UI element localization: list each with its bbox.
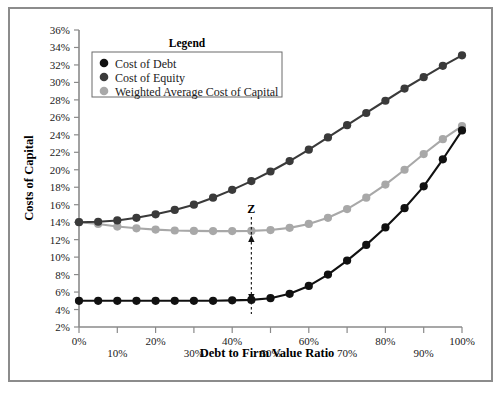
data-point bbox=[132, 214, 140, 222]
data-point bbox=[171, 297, 179, 305]
data-point bbox=[266, 167, 274, 175]
data-point bbox=[400, 84, 408, 92]
data-point bbox=[209, 297, 217, 305]
x-tick-label: 10% bbox=[107, 347, 127, 359]
data-point bbox=[266, 226, 274, 234]
chart-canvas: 2%4%6%8%10%12%14%16%18%20%22%24%26%28%30… bbox=[0, 0, 503, 393]
data-point bbox=[420, 182, 428, 190]
x-tick-label: 80% bbox=[375, 335, 395, 347]
data-point bbox=[343, 257, 351, 265]
x-tick-label: 70% bbox=[337, 347, 357, 359]
x-tick-label: 20% bbox=[146, 335, 166, 347]
x-tick-label: 100% bbox=[449, 335, 475, 347]
legend-label: Cost of Debt bbox=[115, 57, 177, 71]
data-point bbox=[113, 216, 121, 224]
y-tick-label: 4% bbox=[55, 304, 70, 316]
data-point bbox=[190, 201, 198, 209]
data-point bbox=[381, 223, 389, 231]
data-point bbox=[94, 297, 102, 305]
data-point bbox=[324, 214, 332, 222]
data-point bbox=[381, 181, 389, 189]
legend-title: Legend bbox=[169, 37, 206, 50]
data-point bbox=[420, 150, 428, 158]
data-point bbox=[458, 126, 466, 134]
data-point bbox=[286, 290, 294, 298]
y-tick-label: 36% bbox=[50, 24, 70, 36]
y-tick-label: 2% bbox=[55, 321, 70, 333]
data-point bbox=[400, 204, 408, 212]
data-point bbox=[75, 297, 83, 305]
annotation-arrowhead-up bbox=[248, 235, 254, 242]
data-point bbox=[190, 227, 198, 235]
y-tick-label: 14% bbox=[50, 216, 70, 228]
y-tick-label: 6% bbox=[55, 286, 70, 298]
chart-legend: LegendCost of DebtCost of EquityWeighted… bbox=[92, 37, 282, 99]
data-point bbox=[362, 194, 370, 202]
data-point bbox=[132, 224, 140, 232]
data-point bbox=[439, 155, 447, 163]
data-point bbox=[94, 218, 102, 226]
data-point bbox=[209, 227, 217, 235]
x-axis-title: Debt to Firm Value Ratio bbox=[200, 346, 335, 360]
data-point bbox=[209, 194, 217, 202]
data-point bbox=[228, 186, 236, 194]
data-point bbox=[75, 218, 83, 226]
data-point bbox=[439, 135, 447, 143]
data-point bbox=[400, 166, 408, 174]
data-point bbox=[113, 297, 121, 305]
data-point bbox=[152, 297, 160, 305]
data-point bbox=[420, 73, 428, 81]
y-tick-label: 22% bbox=[50, 146, 70, 158]
x-tick-label: 90% bbox=[414, 347, 434, 359]
y-tick-label: 8% bbox=[55, 269, 70, 281]
data-point bbox=[152, 210, 160, 218]
data-point bbox=[171, 206, 179, 214]
y-tick-label: 30% bbox=[50, 76, 70, 88]
data-point bbox=[266, 294, 274, 302]
data-point bbox=[228, 227, 236, 235]
y-tick-label: 10% bbox=[50, 251, 70, 263]
data-point bbox=[286, 157, 294, 165]
data-point bbox=[228, 296, 236, 304]
x-tick-label: 0% bbox=[72, 335, 87, 347]
y-tick-label: 16% bbox=[50, 199, 70, 211]
y-tick-label: 24% bbox=[50, 129, 70, 141]
y-tick-label: 18% bbox=[50, 181, 70, 193]
data-point bbox=[343, 121, 351, 129]
data-point bbox=[343, 205, 351, 213]
data-point bbox=[286, 224, 294, 232]
legend-marker bbox=[100, 59, 109, 68]
data-point bbox=[305, 220, 313, 228]
data-point bbox=[458, 51, 466, 59]
data-point bbox=[152, 226, 160, 234]
y-tick-label: 34% bbox=[50, 41, 70, 53]
y-tick-label: 26% bbox=[50, 111, 70, 123]
data-point bbox=[247, 177, 255, 185]
data-point bbox=[132, 297, 140, 305]
legend-label: Cost of Equity bbox=[115, 71, 185, 85]
y-tick-label: 12% bbox=[50, 234, 70, 246]
data-point bbox=[381, 97, 389, 105]
data-point bbox=[362, 241, 370, 249]
y-axis-ticks: 2%4%6%8%10%12%14%16%18%20%22%24%26%28%30… bbox=[50, 24, 79, 333]
data-point bbox=[324, 270, 332, 278]
data-point bbox=[171, 226, 179, 234]
data-point bbox=[324, 133, 332, 141]
annotation-label-z: Z bbox=[247, 202, 255, 216]
legend-marker bbox=[100, 87, 109, 96]
data-point bbox=[190, 297, 198, 305]
y-tick-label: 32% bbox=[50, 59, 70, 71]
chart-svg: 2%4%6%8%10%12%14%16%18%20%22%24%26%28%30… bbox=[0, 0, 503, 393]
legend-label: Weighted Average Cost of Capital bbox=[115, 85, 279, 99]
data-point bbox=[305, 146, 313, 154]
y-tick-label: 28% bbox=[50, 94, 70, 106]
y-axis-title: Costs of Capital bbox=[22, 135, 36, 221]
y-tick-label: 20% bbox=[50, 164, 70, 176]
data-point bbox=[439, 62, 447, 70]
legend-marker bbox=[100, 73, 109, 82]
data-point bbox=[305, 282, 313, 290]
data-point bbox=[362, 109, 370, 117]
